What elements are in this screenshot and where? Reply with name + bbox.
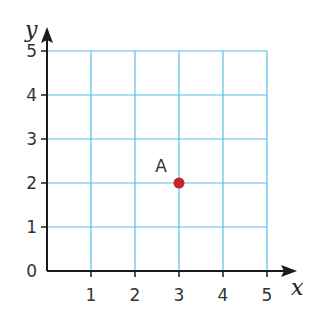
x-tick-label: 5 (262, 285, 273, 305)
point-label: A (155, 156, 167, 176)
x-tick-label: 3 (174, 285, 185, 305)
x-axis-label: x (291, 275, 304, 300)
data-points: A (155, 156, 184, 189)
y-tick-label: 5 (26, 41, 37, 61)
x-tick-label: 2 (130, 285, 141, 305)
x-tick-label: 1 (86, 285, 97, 305)
origin-label: 0 (26, 261, 37, 281)
y-tick-label: 1 (26, 217, 37, 237)
y-axis-label: y (24, 17, 38, 42)
point-a (174, 178, 185, 189)
y-tick-label: 4 (26, 85, 37, 105)
coordinate-grid: 12345123450xy A (0, 0, 312, 319)
y-tick-label: 3 (26, 129, 37, 149)
y-tick-label: 2 (26, 173, 37, 193)
axes (41, 27, 297, 277)
x-tick-label: 4 (218, 285, 229, 305)
